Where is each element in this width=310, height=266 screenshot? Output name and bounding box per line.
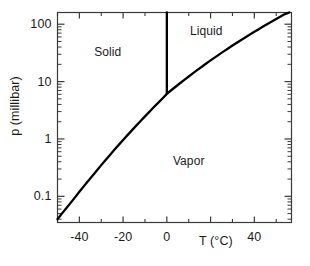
data-curves: [58, 13, 290, 220]
y-tick-label: 10: [18, 76, 52, 89]
axis-ticks: [58, 13, 292, 223]
vapor-region-label: Vapor: [149, 155, 229, 167]
x-tick-label: 0: [147, 231, 187, 244]
y-tick-label: 0.1: [18, 190, 52, 203]
sublimation-vaporization-curve: [58, 13, 290, 220]
x-tick-label: -40: [59, 231, 99, 244]
phase-diagram-figure: p (millibar) -40-20040 0.1110100 SolidLi…: [0, 0, 310, 266]
y-tick-label: 100: [18, 18, 52, 31]
y-axis-title-container: p (millibar): [0, 0, 26, 222]
solid-region-label: Solid: [68, 46, 148, 58]
y-tick-label: 1: [18, 133, 52, 146]
liquid-region-label: Liquid: [166, 25, 246, 37]
axes-frame: [58, 13, 292, 223]
x-axis-title: T (°C): [199, 235, 233, 248]
x-tick-label: -20: [103, 231, 143, 244]
x-tick-label: 40: [234, 231, 274, 244]
